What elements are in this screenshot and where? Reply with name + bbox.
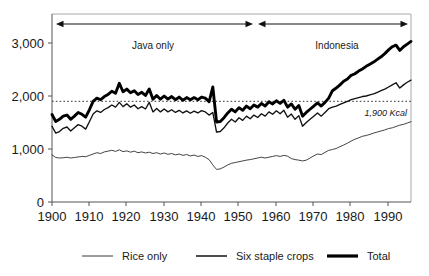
x-tick-label-1910: 1910 — [75, 209, 104, 224]
y-axis-ticks — [48, 43, 52, 202]
x-tick-label-1990: 1990 — [374, 209, 403, 224]
x-tick-label-1970: 1970 — [299, 209, 328, 224]
java-period-label: Java only — [132, 40, 174, 51]
legend-label-rice-only: Rice only — [122, 250, 168, 262]
x-tick-label-1900: 1900 — [38, 209, 67, 224]
legend-label-six-staple-crops: Six staple crops — [236, 250, 314, 262]
java-left-arrowhead-icon — [56, 21, 64, 27]
indonesia-left-arrowhead-icon — [258, 21, 266, 27]
series-line-rice-only — [52, 122, 411, 170]
x-axis-ticks — [52, 202, 388, 206]
x-tick-label-1950: 1950 — [224, 209, 253, 224]
legend-label-total: Total — [367, 250, 390, 262]
period-annotation-java: Java only — [56, 21, 253, 51]
y-axis-tick-labels: 3,000 2,000 1,000 0 — [11, 36, 44, 210]
y-tick-label-3000: 3,000 — [11, 36, 44, 51]
y-tick-label-0: 0 — [37, 195, 44, 210]
x-tick-label-1920: 1920 — [112, 209, 141, 224]
java-right-arrowhead-icon — [246, 21, 254, 27]
chart-canvas: 3,000 2,000 1,000 0 1900 1910 1920 1930 … — [0, 0, 429, 276]
chart-figure: 3,000 2,000 1,000 0 1900 1910 1920 1930 … — [0, 0, 429, 276]
x-axis-tick-labels: 1900 1910 1920 1930 1940 1950 1960 1970 … — [38, 209, 403, 224]
x-tick-label-1940: 1940 — [187, 209, 216, 224]
x-tick-label-1980: 1980 — [336, 209, 365, 224]
series-line-total — [52, 41, 411, 122]
y-tick-label-1000: 1,000 — [11, 142, 44, 157]
series-line-six-staple-crops — [52, 80, 411, 133]
reference-line-label: 1,900 Kcal — [364, 108, 408, 118]
chart-legend: Rice only Six staple crops Total — [82, 250, 390, 262]
y-tick-label-2000: 2,000 — [11, 89, 44, 104]
indonesia-right-arrowhead-icon — [401, 21, 409, 27]
period-annotation-indonesia: Indonesia — [258, 21, 408, 51]
x-tick-label-1930: 1930 — [150, 209, 179, 224]
indonesia-period-label: Indonesia — [315, 40, 359, 51]
x-tick-label-1960: 1960 — [262, 209, 291, 224]
